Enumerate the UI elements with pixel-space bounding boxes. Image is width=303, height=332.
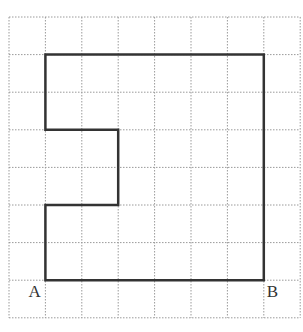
- grid-diagram: [0, 0, 303, 332]
- point-label-a: A: [28, 282, 40, 302]
- point-label-b: B: [267, 282, 278, 302]
- dotted-grid: [9, 17, 300, 318]
